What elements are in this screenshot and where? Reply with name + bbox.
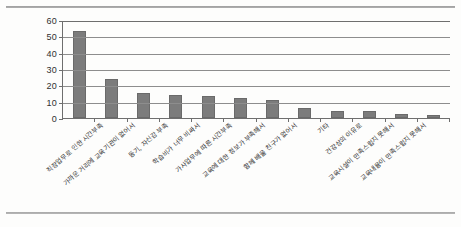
y-tick-label: 20 <box>27 81 57 91</box>
x-axis-category-labels: 직장업무로 인한 시간부족가까운 거리에 교육기관이 없어서동기, 자신감 부족… <box>62 120 450 220</box>
bar <box>105 79 118 118</box>
bar <box>234 98 247 118</box>
gridline <box>63 21 450 22</box>
y-tick-mark <box>59 103 63 104</box>
bar <box>395 114 408 118</box>
x-axis-label: 가사업무에 따른 시간부족 <box>173 120 234 174</box>
plot-area <box>62 21 450 119</box>
x-axis-label: 직장업무로 인한 시간부족 <box>44 120 105 174</box>
y-tick-label: 30 <box>27 65 57 75</box>
bar <box>73 31 86 118</box>
scanned-page: 직장업무로 인한 시간부족가까운 거리에 교육기관이 없어서동기, 자신감 부족… <box>0 0 461 227</box>
y-tick-mark <box>59 37 63 38</box>
bar <box>331 111 344 118</box>
bar <box>298 108 311 118</box>
y-tick-label: 50 <box>27 32 57 42</box>
y-tick-mark <box>59 70 63 71</box>
x-axis-label: 기타 <box>315 120 331 136</box>
y-tick-mark <box>59 86 63 87</box>
bar <box>202 96 215 118</box>
bar <box>137 93 150 118</box>
bar-chart: 직장업무로 인한 시간부족가까운 거리에 교육기관이 없어서동기, 자신감 부족… <box>0 0 461 227</box>
y-tick-mark <box>59 21 63 22</box>
bar <box>363 111 376 118</box>
y-tick-label: 60 <box>27 16 57 26</box>
y-tick-mark <box>59 54 63 55</box>
gridline <box>63 103 450 104</box>
y-tick-label: 10 <box>27 98 57 108</box>
gridline <box>63 37 450 38</box>
bar <box>427 115 440 118</box>
gridline <box>63 54 450 55</box>
bar <box>169 95 182 118</box>
y-tick-label: 0 <box>27 114 57 124</box>
gridline <box>63 86 450 87</box>
y-tick-label: 40 <box>27 49 57 59</box>
gridline <box>63 70 450 71</box>
